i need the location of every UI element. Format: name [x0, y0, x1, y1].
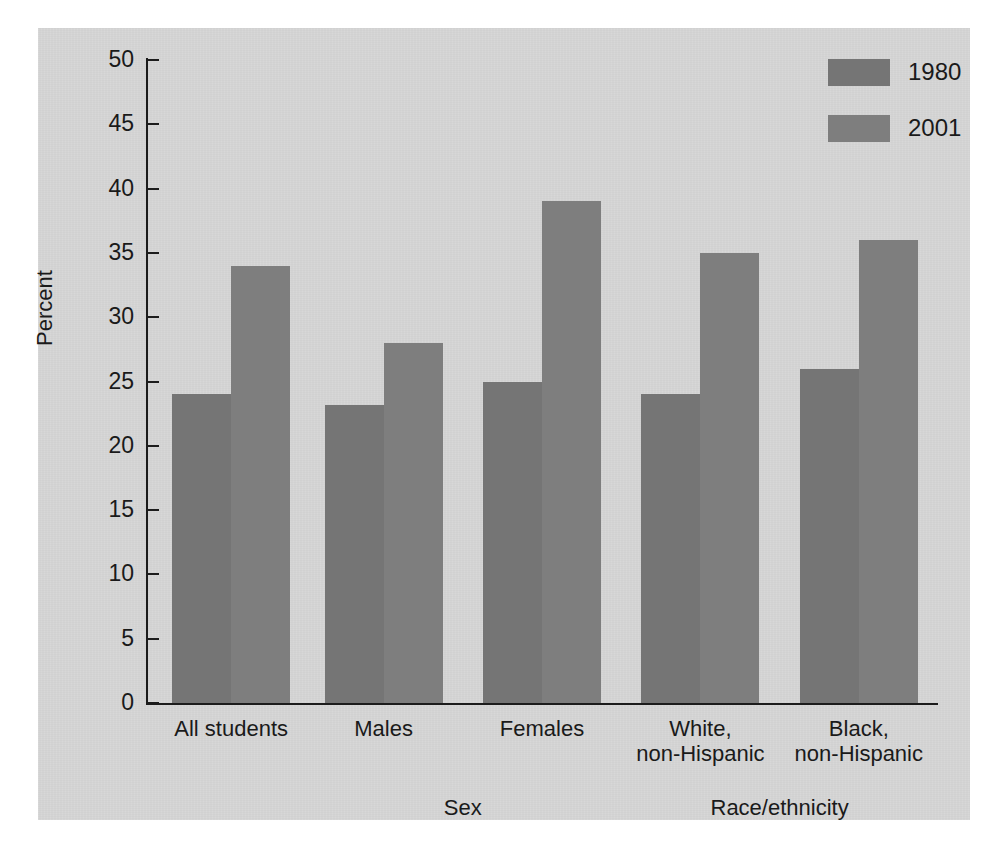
- bar-1980-group-0: [172, 394, 231, 703]
- bar-2001-group-1: [384, 343, 443, 703]
- y-axis-title: Percent: [32, 270, 58, 346]
- bar-2001-group-3: [700, 253, 759, 703]
- y-axis-tick-label-40: 40: [78, 177, 134, 200]
- y-axis-tick-label-15: 15: [78, 498, 134, 521]
- bar-2001-group-0: [231, 266, 290, 703]
- group-label-1: Race/ethnicity: [620, 795, 940, 821]
- legend-item-2001: 2001: [828, 108, 961, 148]
- legend-label-1980: 1980: [908, 60, 961, 84]
- bar-1980-group-2: [483, 382, 542, 704]
- y-axis-tick-label-50: 50: [78, 48, 134, 71]
- x-axis-label-4: Black, non-Hispanic: [739, 717, 979, 766]
- chart-legend: 19802001: [828, 52, 961, 164]
- y-axis-tick-label-10: 10: [78, 562, 134, 585]
- y-axis-tick-label-5: 5: [78, 627, 134, 650]
- group-label-0: Sex: [303, 795, 623, 821]
- bar-2001-group-4: [859, 240, 918, 703]
- legend-swatch-2001: [828, 115, 890, 142]
- bar-1980-group-4: [800, 369, 859, 703]
- bar-1980-group-3: [641, 394, 700, 703]
- y-axis-tick-label-20: 20: [78, 434, 134, 457]
- legend-item-1980: 1980: [828, 52, 961, 92]
- figure-panel: Percent 05101520253035404550 All student…: [38, 28, 970, 820]
- bar-2001-group-2: [542, 201, 601, 703]
- y-axis-tick-label-25: 25: [78, 370, 134, 393]
- legend-label-2001: 2001: [908, 116, 961, 140]
- legend-swatch-1980: [828, 59, 890, 86]
- x-axis-line: [146, 703, 938, 705]
- y-axis-tick-label-35: 35: [78, 241, 134, 264]
- y-axis-tick-label-45: 45: [78, 112, 134, 135]
- bar-1980-group-1: [325, 405, 384, 703]
- plot-area: [146, 60, 938, 703]
- y-axis-tick-label-30: 30: [78, 305, 134, 328]
- y-axis-tick-label-0: 0: [78, 691, 134, 714]
